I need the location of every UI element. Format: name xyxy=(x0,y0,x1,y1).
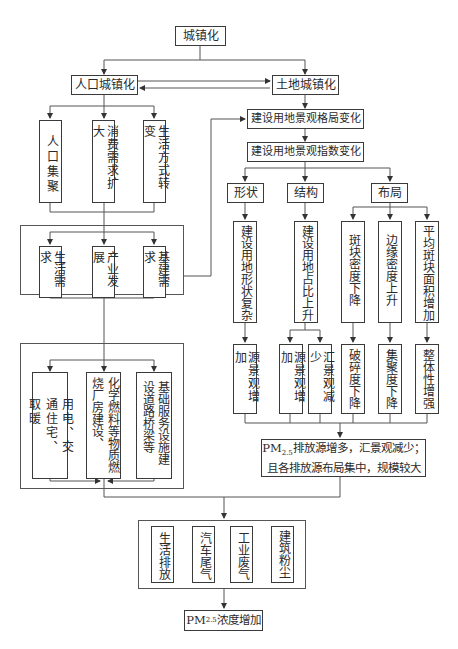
aggregation-decrease-box: 集聚度下降 xyxy=(378,344,402,414)
source-increase-box-2: 源景观增加 xyxy=(279,344,303,414)
vehicle-exhaust-box: 汽车尾气 xyxy=(192,526,215,583)
construction-dust-box: 建筑粉尘 xyxy=(271,526,294,583)
fragmentation-decrease-label: 破碎度下降 xyxy=(346,349,360,409)
industrial-gas-label: 工业废气 xyxy=(235,532,249,580)
living-emission-box: 生活排放 xyxy=(151,526,174,583)
industrial-gas-box: 工业废气 xyxy=(230,526,253,583)
population-agglomeration-label: 人口集聚 xyxy=(44,135,58,195)
infrastructure-construction-label: 基础服务设施建设道路桥梁等 xyxy=(138,381,169,469)
aggregation-decrease-label: 集聚度下降 xyxy=(383,349,397,409)
landscape-pattern-box: 建设用地景观格局变化 xyxy=(247,109,364,129)
sink-decrease-label: 汇景观减少 xyxy=(306,351,334,413)
land-urbanization-box: 土地城镇化 xyxy=(272,75,339,95)
source-increase-box-1: 源景观增加 xyxy=(233,344,257,414)
pm25-increase-box: PM2.5浓度增加 xyxy=(184,610,263,631)
consumption-demand-box: 消费需求扩大 xyxy=(92,120,115,203)
population-agglomeration-box: 人口集聚 xyxy=(39,120,62,203)
vehicle-exhaust-label: 汽车尾气 xyxy=(197,532,211,580)
patch-density-label: 斑块密度下降 xyxy=(346,234,360,306)
summary-line-1: PM2.5排放源增多，汇景观减少； xyxy=(262,440,425,459)
edge-density-box: 边缘密度上升 xyxy=(378,221,402,323)
mean-patch-area-label: 平均斑块面积增加 xyxy=(420,225,434,321)
industry-development-label: 产业发展 xyxy=(90,251,118,297)
structure-box: 结构 xyxy=(287,183,324,203)
electricity-transport-label: 用电、交通住宅、取暖 xyxy=(26,398,75,454)
lifestyle-change-box: 生活方式转变 xyxy=(143,120,166,203)
integrity-increase-box: 整体性增强 xyxy=(415,344,439,414)
edge-density-label: 边缘密度上升 xyxy=(383,234,397,306)
layout-label: 布局 xyxy=(378,186,402,200)
living-emission-label: 生活排放 xyxy=(156,532,170,580)
shape-label: 形状 xyxy=(234,186,258,200)
patch-density-box: 斑块密度下降 xyxy=(341,221,365,323)
land-urbanization-label: 土地城镇化 xyxy=(276,78,336,92)
fuel-combustion-box: 化学燃料等物质燃烧厂房建设、 xyxy=(86,372,121,479)
summary-line-2: 且各排放源布局集中，规模较大 xyxy=(267,460,421,476)
summary-box: PM2.5排放源增多，汇景观减少； 且各排放源布局集中，规模较大 xyxy=(261,439,426,477)
population-urbanization-box: 人口城镇化 xyxy=(71,75,138,95)
urbanization-box: 城镇化 xyxy=(175,26,226,46)
infrastructure-construction-box: 基础服务设施建设道路桥梁等 xyxy=(136,372,172,479)
infrastructure-needs-box: 基建需求 xyxy=(143,246,166,298)
fragmentation-decrease-box: 破碎度下降 xyxy=(341,344,365,414)
landscape-index-label: 建设用地景观指数变化 xyxy=(251,145,361,158)
proportion-rise-label: 建设用地占比上升 xyxy=(299,225,313,321)
fuel-combustion-label: 化学燃料等物质燃烧厂房建设、 xyxy=(88,377,119,473)
shape-complexity-box: 建设用地形状复杂 xyxy=(233,221,257,323)
proportion-rise-box: 建设用地占比上升 xyxy=(294,221,318,323)
landscape-pattern-label: 建设用地景观格局变化 xyxy=(251,112,361,125)
urbanization-label: 城镇化 xyxy=(183,29,219,43)
infrastructure-needs-label: 基建需求 xyxy=(141,251,169,297)
construction-dust-label: 建筑粉尘 xyxy=(276,530,290,578)
living-needs-label: 生活需求 xyxy=(37,251,65,297)
electricity-transport-box: 用电、交通住宅、取暖 xyxy=(32,372,68,479)
integrity-increase-label: 整体性增强 xyxy=(420,349,434,409)
consumption-demand-label: 消费需求扩大 xyxy=(90,125,118,202)
shape-complexity-label: 建设用地形状复杂 xyxy=(238,225,252,321)
structure-label: 结构 xyxy=(294,186,318,200)
shape-box: 形状 xyxy=(227,183,264,203)
industry-development-box: 产业发展 xyxy=(92,246,115,298)
living-needs-box: 生活需求 xyxy=(39,246,62,298)
landscape-index-box: 建设用地景观指数变化 xyxy=(247,142,364,162)
source-increase-label-2: 源景观增加 xyxy=(277,351,305,413)
sink-decrease-box: 汇景观减少 xyxy=(308,344,332,414)
source-increase-label-1: 源景观增加 xyxy=(231,351,259,413)
layout-box: 布局 xyxy=(371,183,408,203)
population-urbanization-label: 人口城镇化 xyxy=(75,78,135,92)
lifestyle-change-label: 生活方式转变 xyxy=(141,125,169,202)
mean-patch-area-box: 平均斑块面积增加 xyxy=(415,221,439,323)
